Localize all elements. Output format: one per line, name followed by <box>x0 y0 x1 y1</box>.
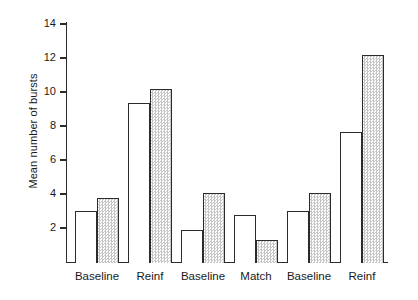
bar-stippled-1 <box>97 198 119 263</box>
y-tick-label-6: 6 <box>30 154 56 165</box>
bar-stippled-3 <box>203 193 225 263</box>
y-tick-label-10: 10 <box>30 86 56 97</box>
y-tick-label-2: 2 <box>30 222 56 233</box>
bar-open-6 <box>340 132 362 263</box>
bar-open-2 <box>128 103 150 263</box>
y-tick-mark-14 <box>60 23 66 24</box>
bar-open-1 <box>75 211 97 263</box>
y-tick-mark-10 <box>60 91 66 92</box>
y-axis-line <box>66 22 67 263</box>
bar-stippled-4 <box>256 240 278 263</box>
y-tick-mark-2 <box>60 227 66 228</box>
bar-open-3 <box>181 230 203 263</box>
bar-stippled-2 <box>150 89 172 263</box>
y-tick-mark-4 <box>60 193 66 194</box>
y-tick-label-14: 14 <box>30 18 56 29</box>
bar-open-5 <box>287 211 309 263</box>
bar-chart: Mean number of bursts 2468101214 Baselin… <box>0 0 418 300</box>
y-tick-mark-6 <box>60 159 66 160</box>
bar-stippled-5 <box>309 193 331 263</box>
y-tick-mark-12 <box>60 57 66 58</box>
bar-open-4 <box>234 215 256 263</box>
y-tick-label-12: 12 <box>30 52 56 63</box>
y-axis-title: Mean number of bursts <box>27 51 39 211</box>
category-label-6: Reinf <box>317 270 407 283</box>
y-tick-label-4: 4 <box>30 188 56 199</box>
bar-stippled-6 <box>362 55 384 263</box>
y-tick-mark-8 <box>60 125 66 126</box>
y-tick-label-8: 8 <box>30 120 56 131</box>
